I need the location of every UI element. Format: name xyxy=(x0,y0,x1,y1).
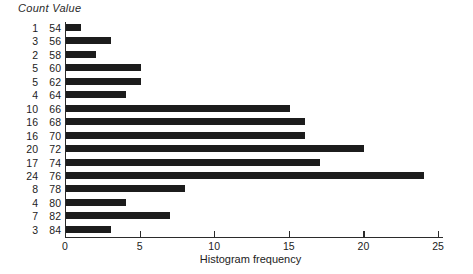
x-axis-tick-label: 20 xyxy=(348,240,378,252)
histogram-row: 2476 xyxy=(0,170,473,183)
histogram-bar xyxy=(66,212,170,219)
row-count-label: 16 xyxy=(0,117,38,128)
row-count-label: 17 xyxy=(0,158,38,169)
x-axis-tick xyxy=(363,231,364,238)
x-axis-title: Histogram frequency xyxy=(0,253,473,265)
histogram-row: 1668 xyxy=(0,116,473,129)
row-count-label: 10 xyxy=(0,104,38,115)
histogram-bar xyxy=(66,24,81,31)
histogram-bar xyxy=(66,172,424,179)
x-axis-tick xyxy=(214,231,215,238)
histogram-row: 384 xyxy=(0,224,473,237)
histogram-row: 1670 xyxy=(0,130,473,143)
histogram-row: 560 xyxy=(0,62,473,75)
histogram-bar xyxy=(66,91,126,98)
histogram-row: 356 xyxy=(0,35,473,48)
row-value-label: 68 xyxy=(40,117,61,128)
histogram-row: 562 xyxy=(0,76,473,89)
row-count-label: 20 xyxy=(0,144,38,155)
histogram-row: 1066 xyxy=(0,103,473,116)
histogram-chart: Count Value 1543562585605624641066166816… xyxy=(0,0,473,274)
x-axis-tick-label: 0 xyxy=(50,240,80,252)
x-axis-tick-label: 25 xyxy=(423,240,453,252)
row-value-label: 66 xyxy=(40,104,61,115)
row-value-label: 56 xyxy=(40,36,61,47)
row-value-label: 72 xyxy=(40,144,61,155)
row-count-label: 3 xyxy=(0,225,38,236)
row-count-label: 7 xyxy=(0,211,38,222)
row-value-label: 84 xyxy=(40,225,61,236)
histogram-bar xyxy=(66,185,185,192)
histogram-row: 2072 xyxy=(0,143,473,156)
row-value-label: 80 xyxy=(40,198,61,209)
histogram-bar xyxy=(66,226,111,233)
x-axis-tick-label: 10 xyxy=(199,240,229,252)
histogram-bar xyxy=(66,159,320,166)
row-value-label: 60 xyxy=(40,63,61,74)
histogram-row: 1774 xyxy=(0,157,473,170)
column-header-count-value: Count Value xyxy=(18,2,81,14)
row-count-label: 24 xyxy=(0,171,38,182)
row-count-label: 4 xyxy=(0,90,38,101)
x-axis-tick xyxy=(140,231,141,238)
histogram-row: 782 xyxy=(0,210,473,223)
row-value-label: 54 xyxy=(40,23,61,34)
histogram-bar xyxy=(66,64,141,71)
y-axis-line xyxy=(65,22,66,238)
histogram-row: 258 xyxy=(0,49,473,62)
histogram-bar xyxy=(66,199,126,206)
row-count-label: 1 xyxy=(0,23,38,34)
x-axis-tick-label: 15 xyxy=(274,240,304,252)
row-count-label: 5 xyxy=(0,77,38,88)
histogram-bar xyxy=(66,132,305,139)
row-value-label: 82 xyxy=(40,211,61,222)
histogram-bar xyxy=(66,37,111,44)
row-value-label: 70 xyxy=(40,131,61,142)
histogram-row: 464 xyxy=(0,89,473,102)
row-value-label: 58 xyxy=(40,50,61,61)
histogram-row: 878 xyxy=(0,183,473,196)
histogram-bar xyxy=(66,118,305,125)
row-value-label: 76 xyxy=(40,171,61,182)
row-count-label: 4 xyxy=(0,198,38,209)
histogram-bar xyxy=(66,105,290,112)
row-count-label: 16 xyxy=(0,131,38,142)
x-axis-tick-label: 5 xyxy=(125,240,155,252)
row-value-label: 62 xyxy=(40,77,61,88)
histogram-bar xyxy=(66,78,141,85)
x-axis-line xyxy=(65,237,443,238)
x-axis-tick xyxy=(65,231,66,238)
row-value-label: 78 xyxy=(40,184,61,195)
row-value-label: 74 xyxy=(40,158,61,169)
histogram-bar xyxy=(66,145,364,152)
row-count-label: 3 xyxy=(0,36,38,47)
row-value-label: 64 xyxy=(40,90,61,101)
histogram-row: 480 xyxy=(0,197,473,210)
row-count-label: 8 xyxy=(0,184,38,195)
histogram-row: 154 xyxy=(0,22,473,35)
histogram-bar xyxy=(66,51,96,58)
x-axis-tick xyxy=(289,231,290,238)
row-count-label: 2 xyxy=(0,50,38,61)
row-count-label: 5 xyxy=(0,63,38,74)
x-axis-tick xyxy=(438,231,439,238)
